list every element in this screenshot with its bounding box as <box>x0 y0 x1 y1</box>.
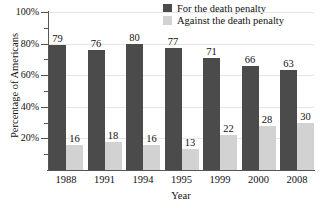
bar-slot: 66 <box>242 12 259 170</box>
bar-value-label: 66 <box>245 54 256 65</box>
x-tick-label-1988: 1988 <box>49 173 83 187</box>
bar-value-label: 77 <box>168 36 179 47</box>
y-tick-label-80: 80% <box>0 39 39 49</box>
bar-value-label: 18 <box>108 130 119 141</box>
x-tick-labels: 1988199119941995199920002008 <box>49 173 314 187</box>
bar-2008-for[interactable] <box>280 70 297 170</box>
bar-2000-for[interactable] <box>242 66 259 170</box>
bar-value-label: 13 <box>185 137 196 148</box>
y-tick-60 <box>41 75 48 76</box>
bar-slot: 18 <box>105 12 122 170</box>
bar-slot: 28 <box>259 12 276 170</box>
x-tick-label-2000: 2000 <box>242 173 276 187</box>
x-tick-label-1999: 1999 <box>203 173 237 187</box>
bar-slot: 77 <box>165 12 182 170</box>
x-tick-label-2008: 2008 <box>280 173 314 187</box>
bar-slot: 76 <box>88 12 105 170</box>
bar-1991-for[interactable] <box>88 50 105 170</box>
y-tick-30 <box>44 123 48 124</box>
y-tick-70 <box>44 59 48 60</box>
y-tick-10 <box>44 154 48 155</box>
y-tick-label-40: 40% <box>0 102 39 112</box>
bar-value-label: 16 <box>146 133 157 144</box>
bar-1988-against[interactable] <box>66 145 83 170</box>
bar-2000-against[interactable] <box>259 126 276 170</box>
x-axis-title: Year <box>48 190 314 201</box>
bar-1994-for[interactable] <box>126 44 143 170</box>
bar-value-label: 22 <box>223 123 234 134</box>
y-tick-label-100: 100% <box>0 7 39 17</box>
bar-2008-against[interactable] <box>297 123 314 170</box>
bar-value-label: 79 <box>52 33 63 44</box>
bar-1988-for[interactable] <box>49 45 66 170</box>
y-tick-label-60: 60% <box>0 70 39 80</box>
y-tick-20 <box>41 138 48 139</box>
bar-1999-for[interactable] <box>203 58 220 170</box>
bar-value-label: 76 <box>91 38 102 49</box>
bar-slot: 16 <box>66 12 83 170</box>
y-tick-100 <box>41 12 48 13</box>
bar-group: 6330 <box>280 12 314 170</box>
bar-slot: 71 <box>203 12 220 170</box>
bar-value-label: 28 <box>262 114 273 125</box>
bar-slot: 63 <box>280 12 297 170</box>
bar-chart: For the death penalty Against the death … <box>0 0 320 208</box>
bar-group: 7618 <box>88 12 122 170</box>
bar-value-label: 71 <box>206 46 217 57</box>
bar-group: 6628 <box>242 12 276 170</box>
bar-slot: 13 <box>182 12 199 170</box>
bar-value-label: 63 <box>283 58 294 69</box>
bar-1991-against[interactable] <box>105 142 122 170</box>
bar-group: 7916 <box>49 12 83 170</box>
bar-1995-for[interactable] <box>165 48 182 170</box>
bar-value-label: 30 <box>300 111 311 122</box>
y-tick-50 <box>44 91 48 92</box>
bar-group: 7122 <box>203 12 237 170</box>
y-axis-title: Percentage of Americans <box>9 11 20 161</box>
bar-slot: 22 <box>220 12 237 170</box>
x-tick-label-1991: 1991 <box>88 173 122 187</box>
bar-slot: 79 <box>49 12 66 170</box>
bar-slot: 30 <box>297 12 314 170</box>
x-axis-line <box>47 170 315 171</box>
bar-group: 7713 <box>165 12 199 170</box>
y-tick-40 <box>41 107 48 108</box>
bar-slot: 16 <box>143 12 160 170</box>
bar-1999-against[interactable] <box>220 135 237 170</box>
bar-slot: 80 <box>126 12 143 170</box>
bar-value-label: 80 <box>129 32 140 43</box>
bar-group: 8016 <box>126 12 160 170</box>
bar-groups: 7916761880167713712266286330 <box>49 12 314 170</box>
x-tick-label-1994: 1994 <box>126 173 160 187</box>
y-tick-80 <box>41 44 48 45</box>
x-tick-label-1995: 1995 <box>165 173 199 187</box>
y-tick-90 <box>44 28 48 29</box>
bar-1994-against[interactable] <box>143 145 160 170</box>
bar-1995-against[interactable] <box>182 149 199 170</box>
y-tick-label-20: 20% <box>0 133 39 143</box>
bar-value-label: 16 <box>69 133 80 144</box>
